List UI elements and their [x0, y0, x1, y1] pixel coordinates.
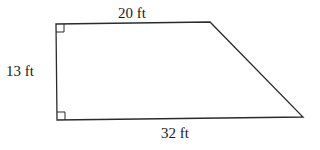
trapezoid-figure: [0, 0, 320, 150]
right-angle-marker-bottom-left: [57, 112, 65, 120]
top-side-label: 20 ft: [118, 6, 146, 21]
right-angle-marker-top-left: [56, 24, 64, 32]
trapezoid-outline: [56, 22, 303, 120]
trapezoid-diagram: 20 ft 13 ft 32 ft: [0, 0, 320, 150]
bottom-side-label: 32 ft: [161, 126, 189, 141]
left-side-label: 13 ft: [6, 64, 34, 79]
